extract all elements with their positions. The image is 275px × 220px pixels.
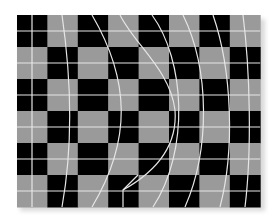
illusion-image bbox=[0, 0, 275, 220]
checkerboard bbox=[0, 0, 275, 220]
